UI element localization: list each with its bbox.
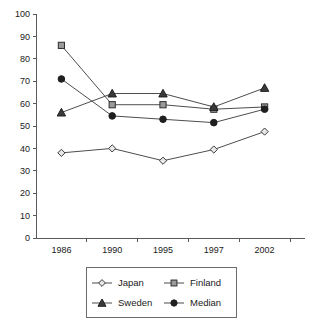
x-axis: 19861990199519972002 [36,238,305,255]
marker-gray-square [160,102,166,108]
marker-gray-square [171,280,177,286]
marker-open-diamond [99,280,106,287]
series-line-japan [61,132,264,161]
line-chart: 0102030405060708090100 19861990199519972… [0,0,320,329]
y-tick-label: 60 [20,99,30,109]
marker-open-diamond [58,149,65,156]
x-tick-label: 1995 [153,245,173,255]
legend-item-label: Sweden [118,297,152,308]
y-tick-label: 0 [25,233,30,243]
y-tick-label: 20 [20,188,30,198]
chart-legend: JapanFinlandSwedenMedian [86,267,236,317]
x-tick-label: 1986 [51,245,71,255]
marker-open-diamond [261,128,268,135]
x-tick-label: 1997 [204,245,224,255]
y-tick-label: 10 [20,211,30,221]
marker-gray-square [58,42,64,48]
marker-open-diamond [159,157,166,164]
series-japan [58,128,268,164]
legend-item-label: Japan [118,277,144,288]
marker-filled-triangle [57,108,65,116]
series-layer [57,42,269,164]
y-tick-label: 30 [20,166,30,176]
marker-filled-circle [261,106,268,113]
y-tick-label: 40 [20,144,30,154]
chart-figure: 0102030405060708090100 19861990199519972… [0,0,320,329]
legend-item-finland[interactable]: Finland [164,277,221,288]
marker-filled-circle [211,119,218,126]
y-tick-label: 70 [20,76,30,86]
series-median [58,76,268,126]
y-axis: 0102030405060708090100 [15,9,36,243]
marker-filled-triangle [260,84,268,92]
x-tick-label: 1990 [102,245,122,255]
y-tick-label: 80 [20,54,30,64]
marker-filled-circle [171,300,177,306]
legend-item-label: Median [190,297,221,308]
legend-item-japan[interactable]: Japan [92,277,144,288]
y-tick-label: 50 [20,121,30,131]
marker-filled-circle [160,116,167,123]
y-tick-label: 100 [15,9,30,19]
legend-item-sweden[interactable]: Sweden [92,297,152,308]
marker-gray-square [109,102,115,108]
legend-item-label: Finland [190,277,221,288]
x-tick-label: 2002 [255,245,275,255]
marker-open-diamond [210,146,217,153]
legend-border [86,267,236,317]
legend-item-median[interactable]: Median [164,297,221,308]
marker-filled-circle [109,113,116,120]
series-sweden [57,84,269,116]
marker-open-diamond [109,145,116,152]
marker-filled-circle [58,76,65,83]
y-tick-label: 90 [20,32,30,42]
